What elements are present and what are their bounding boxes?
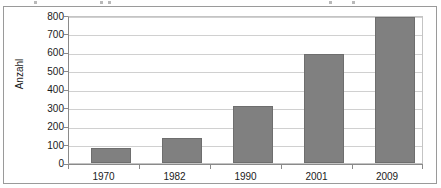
bar-1970 — [91, 148, 131, 163]
chart-screenshot: Anzahl 800 700 600 500 400 300 200 100 0 — [0, 0, 441, 188]
bar-2009 — [375, 17, 415, 163]
y-axis-labels: 800 700 600 500 400 300 200 100 0 — [24, 16, 64, 164]
y-tick-label: 500 — [47, 67, 64, 77]
x-axis: 1970 1982 1990 2001 2009 — [68, 164, 423, 185]
x-tick-label: 1970 — [68, 171, 139, 182]
y-tick-label: 400 — [47, 85, 64, 95]
bar-2001 — [304, 54, 344, 164]
x-tick-label: 2009 — [352, 171, 422, 182]
x-tick-label: 1990 — [210, 171, 281, 182]
y-tick-label: 200 — [47, 122, 64, 132]
bar-1990 — [233, 106, 273, 163]
bar-chart: Anzahl 800 700 600 500 400 300 200 100 0 — [4, 7, 438, 185]
bars — [69, 17, 422, 163]
y-tick-label: 100 — [47, 141, 64, 151]
x-tick-label: 1982 — [139, 171, 210, 182]
y-tick-label: 700 — [47, 30, 64, 40]
cropped-text-remnant — [0, 0, 441, 5]
plot-area — [68, 16, 423, 164]
y-tick-label: 600 — [47, 48, 64, 58]
figure-border: Anzahl 800 700 600 500 400 300 200 100 0 — [3, 6, 437, 184]
y-tick-label: 300 — [47, 104, 64, 114]
y-tick-label: 800 — [47, 12, 64, 22]
x-tick-label: 2001 — [281, 171, 352, 182]
bar-1982 — [162, 138, 202, 163]
